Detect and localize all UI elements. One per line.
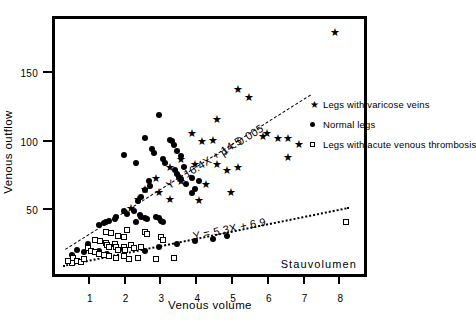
x-tick: 4 <box>195 277 197 284</box>
y-tick-label: 150 <box>20 67 38 78</box>
data-point-varicose: ★ <box>208 137 218 143</box>
data-point-varicose: ★ <box>233 164 243 170</box>
data-point-normal <box>156 244 162 250</box>
data-point-thrombosis <box>115 233 121 239</box>
data-point-normal <box>101 220 107 226</box>
data-point-normal <box>133 160 139 166</box>
data-point-varicose: ★ <box>233 86 243 92</box>
data-point-thrombosis <box>131 245 137 251</box>
data-point-normal <box>142 135 148 141</box>
legend-item-varicose: ★Legs with varicose veins <box>310 96 476 112</box>
data-point-varicose: ★ <box>226 189 236 195</box>
data-point-normal <box>178 153 184 159</box>
data-point-varicose: ★ <box>222 167 232 173</box>
x-tick-label: 4 <box>194 293 200 304</box>
data-point-normal <box>112 216 118 222</box>
x-tick: 8 <box>338 277 340 284</box>
y-tick: 50 <box>43 208 52 210</box>
data-point-thrombosis <box>160 237 166 243</box>
legend: ★Legs with varicose veinsNormal legsLegs… <box>310 96 476 156</box>
data-point-normal <box>160 219 166 225</box>
data-point-thrombosis <box>153 256 159 262</box>
data-point-varicose: ★ <box>194 197 204 203</box>
data-point-varicose: ★ <box>212 116 222 122</box>
data-point-normal <box>144 216 150 222</box>
y-tick: 150 <box>43 71 52 73</box>
data-point-varicose: ★ <box>273 135 283 141</box>
data-point-varicose: ★ <box>294 141 304 147</box>
data-point-varicose: ★ <box>154 189 164 195</box>
data-point-thrombosis <box>108 230 114 236</box>
data-point-thrombosis <box>126 256 132 262</box>
data-point-thrombosis <box>113 255 119 261</box>
data-point-normal <box>156 112 162 118</box>
data-point-varicose: ★ <box>244 94 254 100</box>
data-point-normal <box>196 178 202 184</box>
stauvolumen-note: Stauvolumen <box>281 258 357 270</box>
data-point-varicose: ★ <box>165 196 175 202</box>
x-tick: 1 <box>88 277 90 284</box>
x-tick-label: 8 <box>338 293 344 304</box>
x-tick: 6 <box>267 277 269 284</box>
data-point-normal <box>133 219 139 225</box>
data-point-normal <box>147 183 153 189</box>
data-point-thrombosis <box>121 234 127 240</box>
data-point-normal <box>135 198 141 204</box>
x-tick: 5 <box>231 277 233 284</box>
legend-item-label: Normal legs <box>323 119 375 130</box>
legend-item-thrombosis: Legs with acute venous thrombosis <box>310 136 476 152</box>
data-point-normal <box>162 160 168 166</box>
x-tick-label: 6 <box>266 293 272 304</box>
data-point-normal <box>124 211 130 217</box>
circle-marker-icon <box>310 118 323 131</box>
data-point-varicose: ★ <box>187 130 197 136</box>
data-point-normal <box>96 222 102 228</box>
thrombosis-fit-label: Y = 5.3X + 6.9 <box>192 215 267 242</box>
legend-item-normal: Normal legs <box>310 116 476 132</box>
data-point-varicose: ★ <box>201 181 211 187</box>
data-point-thrombosis <box>124 227 130 233</box>
x-tick: 7 <box>303 277 305 284</box>
x-tick: 2 <box>124 277 126 284</box>
square-marker-icon <box>310 138 323 151</box>
data-point-normal <box>151 150 157 156</box>
data-point-varicose: ★ <box>151 175 161 181</box>
x-tick-label: 3 <box>159 293 165 304</box>
x-tick-label: 2 <box>123 293 129 304</box>
data-point-thrombosis <box>138 244 144 250</box>
y-axis-title: Venous outflow <box>2 110 14 194</box>
data-point-normal <box>189 190 195 196</box>
legend-item-label: Legs with varicose veins <box>323 99 430 110</box>
data-point-thrombosis <box>65 258 71 264</box>
data-point-normal <box>131 208 137 214</box>
x-tick-label: 1 <box>87 293 93 304</box>
star-marker-icon: ★ <box>310 98 323 111</box>
data-point-normal <box>121 152 127 158</box>
x-tick-label: 7 <box>302 293 308 304</box>
data-point-normal <box>74 247 80 253</box>
data-point-thrombosis <box>144 231 150 237</box>
data-point-thrombosis <box>81 256 87 262</box>
data-point-normal <box>174 241 180 247</box>
y-tick: 100 <box>43 140 52 142</box>
x-axis-title: Venous volume <box>168 299 252 311</box>
data-point-varicose: ★ <box>283 154 293 160</box>
data-point-varicose: ★ <box>330 29 340 35</box>
data-point-normal <box>142 187 148 193</box>
legend-item-label: Legs with acute venous thrombosis <box>323 139 476 150</box>
data-point-thrombosis <box>106 253 112 259</box>
y-tick-label: 50 <box>26 205 38 216</box>
data-point-thrombosis <box>171 255 177 261</box>
data-point-thrombosis <box>135 255 141 261</box>
data-point-varicose: ★ <box>197 138 207 144</box>
data-point-varicose: ★ <box>283 135 293 141</box>
x-tick-label: 5 <box>230 293 236 304</box>
y-tick-label: 100 <box>20 136 38 147</box>
x-tick: 3 <box>159 277 161 284</box>
data-point-thrombosis <box>343 219 349 225</box>
